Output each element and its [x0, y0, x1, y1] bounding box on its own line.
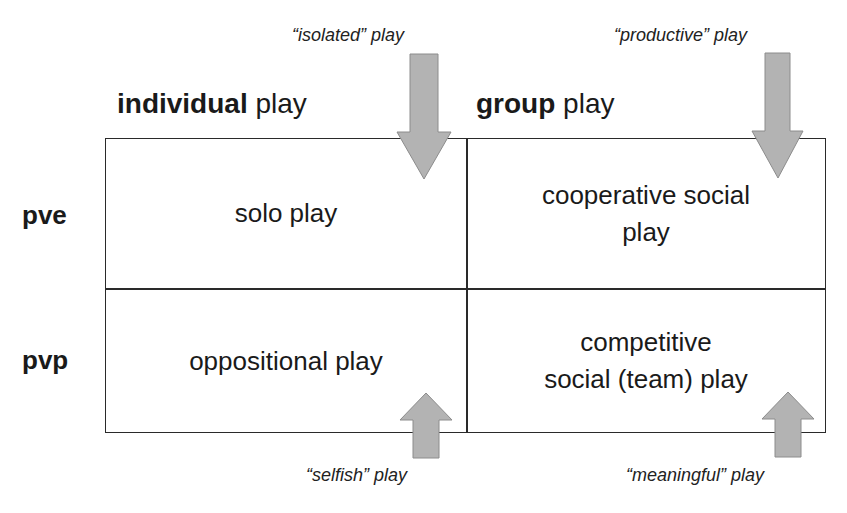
cell-text-competitive-line1: competitive	[580, 324, 712, 361]
annotation-productive-play: “productive” play	[614, 25, 747, 46]
up-arrow-icon-selfish	[398, 393, 454, 459]
annotation-selfish-play: “selfish” play	[306, 465, 407, 486]
down-arrow-icon-isolated	[396, 54, 452, 180]
column-header-individual-bold: individual	[117, 88, 248, 119]
row-header-pve: pve	[22, 200, 67, 231]
column-header-group-bold: group	[476, 88, 555, 119]
annotation-meaningful-play: “meaningful” play	[626, 465, 764, 486]
annotation-isolated-play: “isolated” play	[292, 25, 404, 46]
column-header-group: group play	[476, 88, 614, 120]
column-header-individual-rest: play	[248, 88, 307, 119]
cell-text-competitive-line2: social (team) play	[544, 361, 748, 398]
cell-text-oppositional-play: oppositional play	[189, 343, 383, 380]
play-matrix-grid: solo play cooperative social play opposi…	[105, 138, 826, 433]
column-header-individual: individual play	[117, 88, 307, 120]
cell-text-cooperative-line1: cooperative social	[542, 177, 750, 214]
cell-text-solo-play: solo play	[235, 195, 338, 232]
cell-text-cooperative-line2: play	[622, 214, 670, 251]
down-arrow-icon-productive	[750, 53, 806, 179]
row-header-pvp: pvp	[22, 345, 68, 376]
up-arrow-icon-meaningful	[760, 392, 816, 458]
column-header-group-rest: play	[555, 88, 614, 119]
